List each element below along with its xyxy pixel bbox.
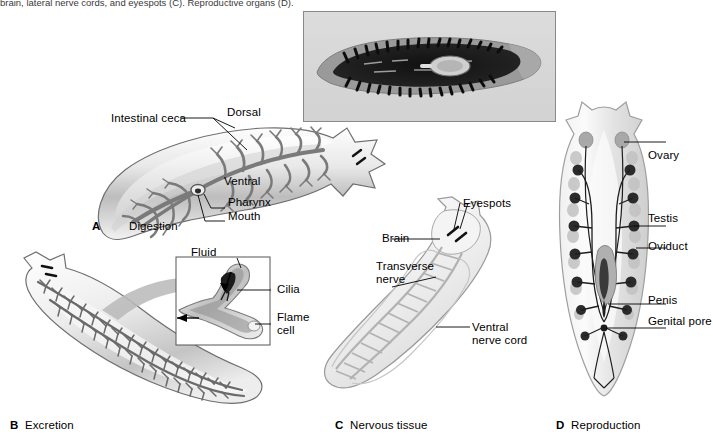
label-testis: Testis — [648, 212, 678, 225]
panel-title-b: Excretion — [25, 419, 74, 432]
label-flame-cell: Flame cell — [277, 311, 309, 337]
label-cilia: Cilia — [277, 283, 300, 296]
panel-title-a: Digestion — [129, 220, 178, 233]
figure-caption-fragment: brain, lateral nerve cords, and eyespots… — [0, 0, 713, 8]
panel-title-d: Reproduction — [571, 419, 641, 432]
label-flame-cell-line1: Flame — [277, 311, 309, 323]
label-transverse-nerve: Transverse nerve — [376, 260, 434, 286]
label-flame-cell-line2: cell — [277, 324, 295, 336]
label-pharynx: Pharynx — [228, 196, 271, 209]
label-penis: Penis — [648, 294, 677, 307]
panel-letter-a: A — [92, 220, 100, 233]
label-oviduct: Oviduct — [648, 240, 688, 253]
panel-letter-d: D — [556, 419, 564, 432]
label-transverse-nerve-line2: nerve — [376, 273, 405, 285]
label-ovary: Ovary — [648, 149, 679, 162]
label-brain: Brain — [382, 232, 409, 245]
label-transverse-nerve-line1: Transverse — [376, 260, 434, 272]
panel-letter-b: B — [10, 419, 18, 432]
planarian-anatomy-figure: brain, lateral nerve cords, and eyespots… — [0, 0, 713, 438]
flame-cell-inset — [175, 256, 273, 348]
label-intestinal-ceca: Intestinal ceca — [111, 112, 186, 125]
label-genital-pore: Genital pore — [648, 315, 712, 328]
panel-c-nervous-drawing — [318, 195, 508, 415]
label-dorsal: Dorsal — [227, 106, 261, 119]
label-eyespots: Eyespots — [463, 197, 511, 210]
label-ventral: Ventral — [224, 175, 261, 188]
label-mouth: Mouth — [228, 210, 260, 223]
label-ventral-nerve-cord-line1: Ventral — [472, 321, 509, 333]
label-fluid: Fluid — [191, 246, 216, 259]
panel-title-c: Nervous tissue — [350, 419, 427, 432]
label-ventral-nerve-cord-line2: nerve cord — [472, 334, 527, 346]
panel-letter-c: C — [335, 419, 343, 432]
label-ventral-nerve-cord: Ventral nerve cord — [472, 321, 527, 347]
